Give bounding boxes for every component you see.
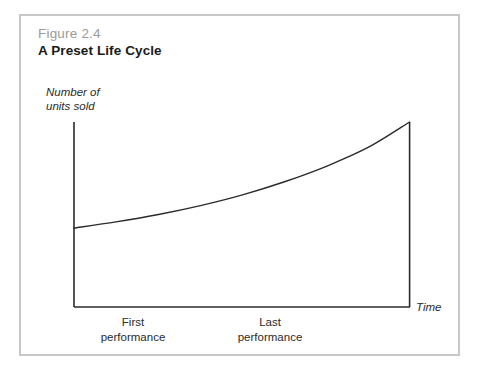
y-axis-label-line1: Number of xyxy=(46,86,101,98)
figure-container: Figure 2.4 A Preset Life Cycle Number of… xyxy=(0,0,481,375)
x-tick-label-first-line1: First xyxy=(122,316,145,328)
x-tick-label-first-line2: performance xyxy=(101,331,166,343)
x-tick-label-last-line2: performance xyxy=(238,331,303,343)
units-sold-curve xyxy=(74,122,410,228)
y-axis-label-line2: units sold xyxy=(46,100,95,112)
life-cycle-chart: Number of units sold Time First performa… xyxy=(0,0,481,375)
x-axis-label: Time xyxy=(416,301,441,313)
x-tick-label-last-line1: Last xyxy=(259,316,282,328)
